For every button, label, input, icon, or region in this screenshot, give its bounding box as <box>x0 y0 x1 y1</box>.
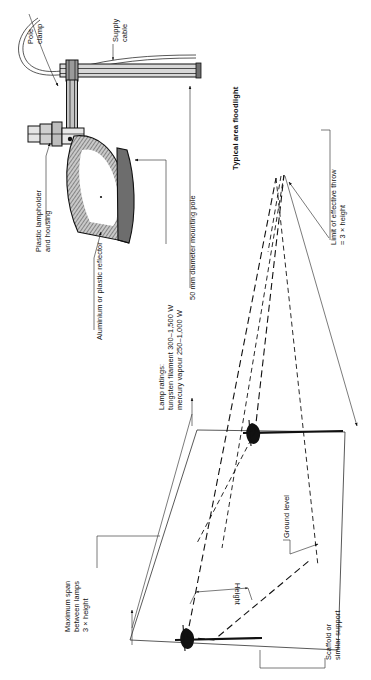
ground-plane <box>130 430 345 650</box>
figure-title: Typical area floodlight <box>231 87 240 170</box>
label-lamp-ratings: Lamp ratings: tungsten filament 300–1,50… <box>157 305 185 410</box>
lower-leaders <box>97 130 357 668</box>
pole-clamp <box>66 60 78 81</box>
label-reflector: Aluminium or plastic reflector <box>95 242 104 340</box>
height-dimension <box>190 588 252 604</box>
label-scaffold-support: Scaffold or similar support <box>324 610 342 660</box>
label-plastic-lampholder: Plastic lampholder and housing <box>34 190 52 252</box>
coverage-geometry <box>130 175 345 651</box>
reflector <box>67 136 134 243</box>
lamp-head-far <box>243 420 343 446</box>
label-height: Height <box>233 583 242 605</box>
label-supply-cable: Supply cable <box>111 19 129 42</box>
beam-cone-near <box>187 178 318 640</box>
label-mounting-pole: 50 mm diameter mounting pole <box>188 195 197 300</box>
mounting-pole <box>60 63 201 78</box>
max-span-dimension <box>97 398 192 645</box>
label-pole-clamp: Pole clamp <box>26 24 44 44</box>
figure-artwork <box>0 0 371 680</box>
figure-page: Pole clamp Supply cable Plastic lamphold… <box>0 0 371 680</box>
label-maximum-span: Maximum span between lamps 3 × height <box>63 581 91 632</box>
ground-level-leader <box>283 540 318 554</box>
scaffold-leader <box>260 650 325 668</box>
label-limit-of-effective-throw: Limit of effective throw = 3 × height <box>329 169 347 245</box>
label-ground-level: Ground level <box>282 495 291 538</box>
lamp-head-near <box>175 625 262 651</box>
